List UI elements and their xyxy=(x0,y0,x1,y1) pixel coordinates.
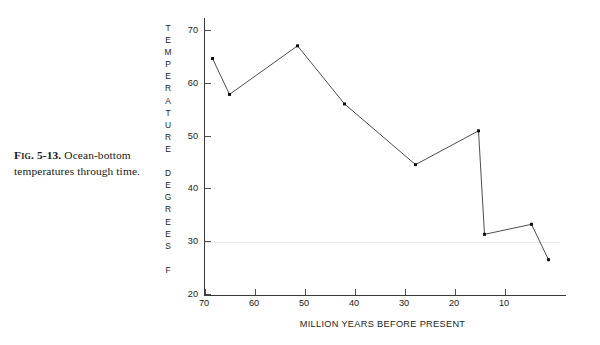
data-point-marker xyxy=(296,44,299,47)
data-point-marker xyxy=(211,57,214,60)
line-chart-plot xyxy=(0,0,600,345)
y-axis-ticks xyxy=(205,31,212,295)
data-point-marker xyxy=(343,102,346,105)
chart-axes xyxy=(204,18,566,296)
series-markers xyxy=(211,44,550,261)
data-point-marker xyxy=(477,129,480,132)
figure-container: Fig. 5-13. Ocean-bottom temperatures thr… xyxy=(0,0,600,345)
data-point-marker xyxy=(228,93,231,96)
data-series xyxy=(211,44,550,261)
data-point-marker xyxy=(547,258,550,261)
data-point-marker xyxy=(483,233,486,236)
data-point-marker xyxy=(414,163,417,166)
x-axis-ticks xyxy=(206,289,506,296)
data-point-marker xyxy=(530,223,533,226)
series-line xyxy=(213,46,549,260)
